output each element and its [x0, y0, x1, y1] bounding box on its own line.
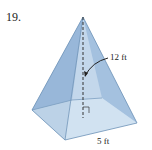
- square-pyramid-diagram: [0, 0, 152, 150]
- base-side-label: 5 ft: [97, 136, 109, 146]
- pyramid-figure: 19. 12 ft 5 ft: [0, 0, 152, 150]
- height-label: 12 ft: [110, 52, 127, 62]
